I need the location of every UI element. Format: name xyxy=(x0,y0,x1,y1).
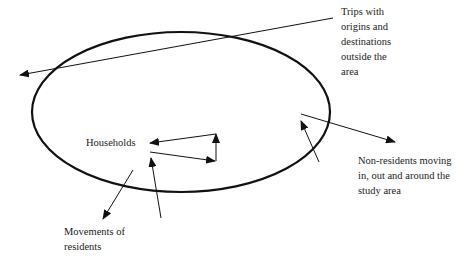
household-trip-out-arrow xyxy=(150,152,215,161)
non-resident-inbound-arrow xyxy=(301,121,319,162)
non-resident-outbound-arrow xyxy=(301,114,395,142)
label-line: outside the xyxy=(341,49,391,64)
trips-outside-label: Trips with origins and destinations outs… xyxy=(341,4,391,79)
label-line: in, out and around the xyxy=(358,168,452,183)
study-area-boundary xyxy=(32,32,330,192)
label-line: destinations xyxy=(341,34,391,49)
resident-inbound-arrow xyxy=(151,158,161,218)
non-residents-label: Non-residents moving in, out and around … xyxy=(358,153,452,198)
households-label: Households xyxy=(86,135,136,150)
diagram-canvas xyxy=(0,0,472,261)
movements-residents-label: Movements of residents xyxy=(64,224,125,254)
label-line: Trips with xyxy=(341,4,391,19)
resident-outbound-arrow xyxy=(103,170,133,219)
label-line: area xyxy=(341,64,391,79)
label-line: residents xyxy=(64,239,125,254)
label-line: Non-residents moving xyxy=(358,153,452,168)
label-line: origins and xyxy=(341,19,391,34)
household-trip-return-arrow xyxy=(150,134,216,143)
through-trip-arrow xyxy=(20,18,333,75)
label-line: Movements of xyxy=(64,224,125,239)
label-line: study area xyxy=(358,183,452,198)
